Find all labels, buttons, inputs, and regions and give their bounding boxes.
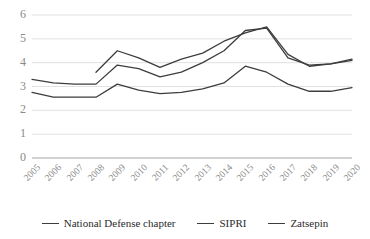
plot-area bbox=[0, 0, 370, 239]
series-line-0 bbox=[32, 66, 352, 97]
legend-label: National Defense chapter bbox=[64, 218, 176, 229]
series-line-2 bbox=[96, 27, 352, 72]
y-tick-label: 0 bbox=[8, 151, 26, 163]
legend-line-swatch bbox=[268, 223, 285, 224]
y-tick-label: 6 bbox=[8, 8, 26, 20]
y-tick-label: 1 bbox=[8, 127, 26, 139]
legend-line-swatch bbox=[197, 223, 214, 224]
chart-legend: National Defense chapterSIPRIZatsepin bbox=[0, 212, 370, 234]
legend-item[interactable]: National Defense chapter bbox=[42, 218, 176, 229]
y-tick-label: 2 bbox=[8, 103, 26, 115]
gridlines bbox=[32, 15, 352, 158]
y-tick-label: 4 bbox=[8, 56, 26, 68]
legend-line-swatch bbox=[42, 223, 59, 224]
legend-label: Zatsepin bbox=[290, 218, 328, 229]
y-tick-label: 3 bbox=[8, 80, 26, 92]
y-tick-label: 5 bbox=[8, 32, 26, 44]
line-chart: 6543210 20052006200720082009201020112012… bbox=[0, 0, 370, 239]
legend-label: SIPRI bbox=[219, 218, 246, 229]
legend-item[interactable]: Zatsepin bbox=[268, 218, 328, 229]
legend-item[interactable]: SIPRI bbox=[197, 218, 246, 229]
